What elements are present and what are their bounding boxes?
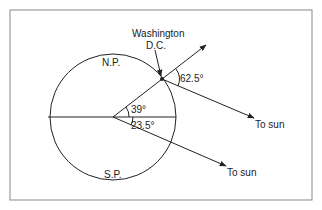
label-south-pole: S.P. (104, 169, 122, 180)
arc-62-5 (176, 69, 179, 86)
label-62-5: 62.5° (180, 73, 203, 84)
arc-39 (126, 107, 129, 117)
label-city-1: Washington (132, 28, 184, 39)
label-39: 39° (131, 104, 146, 115)
label-city-2: D.C. (146, 40, 166, 51)
label-north-pole: N.P. (102, 57, 120, 68)
washington-dot (160, 77, 164, 81)
label-23-5: 23.5° (131, 120, 154, 131)
label-sun-lower: To sun (227, 167, 256, 178)
pointer-arrow (155, 50, 161, 76)
label-sun-upper: To sun (255, 119, 284, 130)
earth-sun-angle-diagram: N.P. S.P. Washington D.C. 39° 23.5° 62.5… (0, 0, 322, 210)
sun-ray-lower (113, 117, 226, 166)
